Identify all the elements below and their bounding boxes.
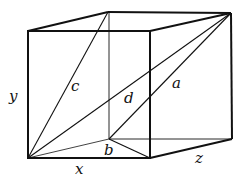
diagonal-b xyxy=(28,139,109,158)
diagonal-c xyxy=(28,12,108,158)
edge-bottom-right-depth xyxy=(150,139,232,158)
edge-bottom-left-depth xyxy=(109,139,150,158)
edge-top-back xyxy=(108,12,231,13)
label-b: b xyxy=(104,141,114,159)
edge-back-right-vertical xyxy=(231,13,232,139)
box-diagram: y c d a b x z xyxy=(0,0,245,181)
edge-top-left-depth xyxy=(28,12,108,31)
label-a: a xyxy=(172,74,181,92)
diagonal-d xyxy=(28,13,231,158)
label-c: c xyxy=(71,77,80,95)
label-y: y xyxy=(8,87,18,105)
label-x: x xyxy=(75,160,84,178)
label-z: z xyxy=(194,149,203,167)
label-d: d xyxy=(124,89,134,107)
